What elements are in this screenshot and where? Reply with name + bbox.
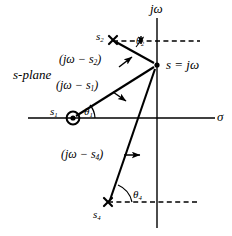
sigma-axis-label: σ <box>217 110 223 123</box>
s-plane-diagram: jω σ s-plane s = jω s2 s4 s1 θ1 θ2 θ4 (j… <box>0 0 232 236</box>
vector-jw-minus-s4-label: (jω − s4) <box>61 148 103 162</box>
evaluation-point-label: s = jω <box>166 58 199 71</box>
vector-jw-minus-s1-label: (jω − s1) <box>56 79 98 93</box>
theta4-label: θ4 <box>133 189 142 202</box>
theta1-label: θ1 <box>84 106 93 119</box>
vector-jw-minus-s4-line <box>110 69 155 200</box>
leader-arrow-vector-s2 <box>119 57 132 67</box>
diagram-canvas <box>0 0 232 236</box>
marker-evaluation-point <box>154 62 159 67</box>
vector-jw-minus-s2-label: (jω − s2) <box>59 53 101 67</box>
theta4-arc <box>118 185 132 202</box>
vector-jw-minus-s2-line <box>116 42 154 63</box>
jomega-axis-label: jω <box>150 2 163 15</box>
s4-label: s4 <box>93 209 101 222</box>
s2-label: s2 <box>96 31 104 44</box>
s-plane-label: s-plane <box>13 68 51 81</box>
theta2-label: θ2 <box>136 36 144 47</box>
leader-arrow-vector-s1 <box>113 92 126 101</box>
s1-label: s1 <box>50 106 58 119</box>
marker-s2-cross <box>109 36 117 44</box>
